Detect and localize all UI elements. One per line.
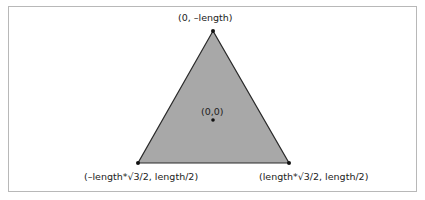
center-label: (0,0) bbox=[201, 106, 224, 117]
triangle-diagram bbox=[0, 0, 425, 200]
vertex-label-top: (0, –length) bbox=[178, 12, 233, 23]
vertex-label-bottom-right: (length*√3/2, length/2) bbox=[259, 171, 368, 182]
center-dot bbox=[211, 118, 215, 122]
vertex-dot-bottom-left bbox=[136, 161, 140, 165]
vertex-dot-bottom-right bbox=[287, 161, 291, 165]
vertex-label-bottom-left: (–length*√3/2, length/2) bbox=[84, 171, 198, 182]
equilateral-triangle bbox=[138, 31, 289, 163]
vertex-dot-top bbox=[211, 29, 215, 33]
